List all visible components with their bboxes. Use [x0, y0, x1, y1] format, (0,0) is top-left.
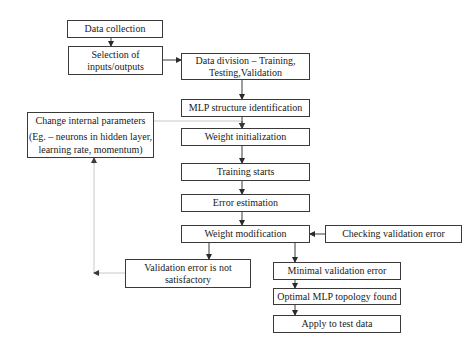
- node-apply-test-data: Apply to test data: [273, 315, 401, 333]
- node-selection-inputs-outputs: Selection of inputs/outputs: [68, 46, 163, 75]
- node-label: Apply to test data: [302, 318, 373, 330]
- node-label-line2: inputs/outputs: [87, 61, 144, 73]
- node-data-division: Data division – Training, Testing,Valida…: [181, 53, 310, 80]
- node-label: Training starts: [217, 166, 275, 178]
- feedback-notok-to-params: [94, 158, 125, 273]
- node-label: Minimal validation error: [288, 265, 387, 277]
- node-label: Data collection: [85, 23, 146, 35]
- node-label-line1: Change internal parameters: [36, 114, 146, 127]
- node-data-collection: Data collection: [67, 20, 163, 38]
- node-label-line2: Testing,Validation: [209, 67, 282, 79]
- node-label: MLP structure identification: [189, 102, 303, 114]
- node-validation-not-satisfactory: Validation error is not satisfactory: [125, 259, 251, 288]
- node-label-line1: Selection of: [91, 49, 139, 61]
- node-weight-initialization: Weight initialization: [181, 128, 310, 146]
- node-label: Weight modification: [204, 228, 286, 240]
- node-label: Weight initialization: [205, 131, 287, 143]
- node-label: Optimal MLP topology found: [277, 291, 396, 303]
- node-minimal-validation-error: Minimal validation error: [273, 262, 401, 280]
- node-mlp-structure: MLP structure identification: [181, 99, 310, 117]
- node-label-line2: (Eg. – neurons in hidden layer,: [29, 130, 152, 143]
- node-error-estimation: Error estimation: [181, 194, 310, 212]
- node-label: Checking validation error: [342, 228, 445, 240]
- flowchart-canvas: Data collection Selection of inputs/outp…: [0, 0, 474, 346]
- node-label-line1: Data division – Training,: [195, 55, 295, 67]
- node-change-parameters: Change internal parameters (Eg. – neuron…: [27, 112, 154, 158]
- node-label-line1: Validation error is not: [144, 262, 231, 274]
- node-label-line2: satisfactory: [165, 274, 211, 286]
- node-training-starts: Training starts: [181, 163, 310, 181]
- node-optimal-topology: Optimal MLP topology found: [273, 288, 401, 305]
- node-weight-modification: Weight modification: [181, 225, 310, 243]
- node-label: Error estimation: [213, 197, 278, 209]
- node-label-line3: learning rate, momentum): [38, 143, 142, 156]
- node-checking-validation-error: Checking validation error: [325, 225, 462, 243]
